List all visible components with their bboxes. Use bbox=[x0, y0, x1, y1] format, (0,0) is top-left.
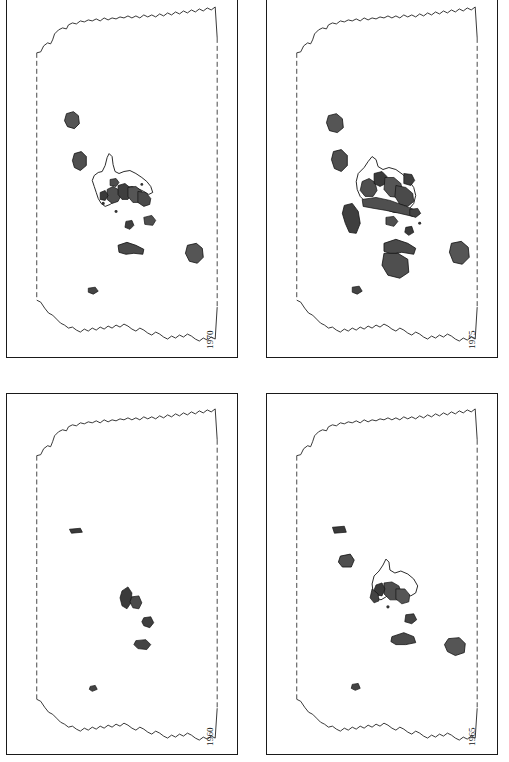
urban-patch-group-satellites bbox=[65, 112, 204, 294]
map-panel-1970: 1970 bbox=[6, 0, 238, 358]
urban-patch bbox=[185, 243, 203, 263]
urban-patch bbox=[352, 286, 362, 294]
urban-patch bbox=[72, 152, 86, 171]
river-boundary-south bbox=[37, 300, 217, 341]
river-boundary-north bbox=[37, 7, 217, 53]
urban-patch bbox=[444, 638, 465, 656]
urban-patch bbox=[144, 215, 156, 225]
admin-boundary-dashed bbox=[37, 38, 217, 307]
urban-dot bbox=[102, 202, 105, 205]
urban-dot bbox=[418, 222, 421, 225]
river-boundary-north bbox=[297, 7, 477, 53]
urban-patch bbox=[351, 683, 360, 690]
urban-dot bbox=[386, 605, 389, 608]
urban-patch bbox=[338, 554, 354, 567]
panel-year-label-1960: 1960 bbox=[205, 727, 215, 746]
urban-patch bbox=[342, 203, 360, 233]
urban-patch bbox=[134, 640, 151, 650]
figure-caption-strip bbox=[0, 758, 509, 762]
urban-patch bbox=[120, 587, 132, 609]
map-graphic-1975 bbox=[267, 0, 497, 357]
urban-patch bbox=[386, 216, 398, 226]
urban-patch bbox=[332, 526, 346, 533]
map-panel-1960: 1960 bbox=[6, 393, 238, 755]
urban-patch bbox=[405, 614, 417, 624]
map-panel-1975: 1975 bbox=[266, 0, 498, 358]
urban-patch bbox=[118, 242, 144, 254]
map-graphic-1960 bbox=[7, 394, 237, 754]
urban-patch-group-core bbox=[360, 172, 415, 217]
panel-year-label-1970: 1970 bbox=[205, 330, 215, 349]
urban-patch bbox=[404, 174, 415, 186]
admin-boundary-dashed bbox=[37, 440, 217, 709]
urban-patch bbox=[331, 150, 347, 172]
map-panel-1965: 1965 bbox=[266, 393, 498, 755]
urban-patch bbox=[449, 241, 469, 264]
river-boundary-north bbox=[37, 409, 217, 456]
panel-year-label-1965: 1965 bbox=[467, 727, 477, 746]
urban-patch-group-satellites bbox=[332, 526, 465, 690]
urban-patch bbox=[89, 685, 97, 691]
urban-dot bbox=[140, 183, 143, 186]
urban-patch-group bbox=[69, 528, 153, 691]
urban-patch bbox=[65, 112, 80, 129]
urban-patch-group-core bbox=[370, 582, 410, 604]
urban-patch bbox=[88, 287, 98, 294]
urban-patch bbox=[391, 633, 416, 645]
urban-patch bbox=[382, 253, 409, 278]
figure-root: 1970 bbox=[0, 0, 509, 762]
urban-patch-group-core bbox=[100, 178, 151, 206]
panel-year-label-1975: 1975 bbox=[467, 330, 477, 349]
urban-patch bbox=[410, 208, 421, 217]
map-graphic-1965 bbox=[267, 394, 497, 754]
river-boundary-south bbox=[297, 699, 477, 740]
urban-patch bbox=[142, 617, 154, 628]
urban-patch bbox=[130, 596, 142, 609]
urban-patch bbox=[69, 528, 82, 533]
urban-dot bbox=[115, 210, 118, 213]
urban-patch bbox=[326, 114, 343, 133]
admin-boundary-dashed bbox=[297, 440, 477, 709]
urban-patch bbox=[405, 226, 414, 235]
river-boundary-south bbox=[297, 300, 477, 341]
river-boundary-south bbox=[37, 699, 217, 740]
urban-patch bbox=[396, 589, 410, 604]
urban-patch bbox=[138, 191, 151, 206]
urban-patch bbox=[384, 239, 416, 254]
map-graphic-1970 bbox=[7, 0, 237, 357]
urban-patch bbox=[125, 220, 134, 229]
river-boundary-north bbox=[297, 409, 477, 456]
